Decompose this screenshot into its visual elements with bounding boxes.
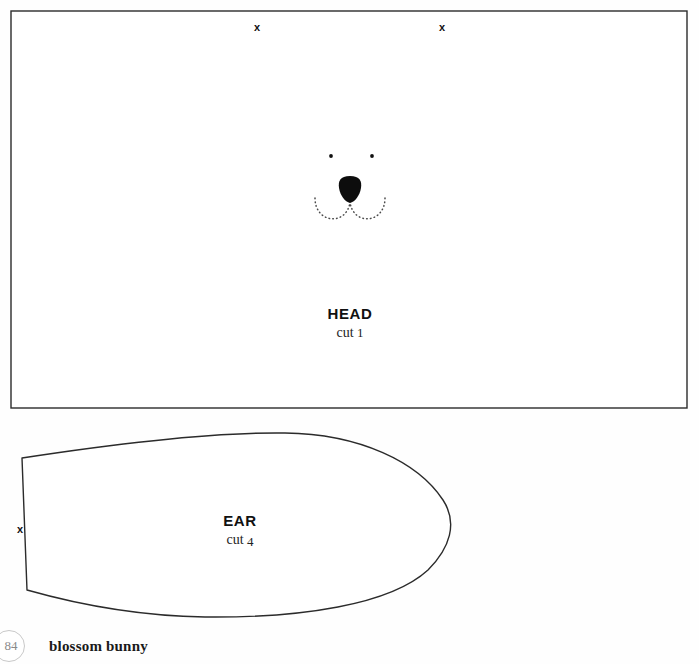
ear-piece-name: EAR bbox=[170, 513, 310, 528]
head-notch-left-mark: x bbox=[254, 22, 260, 33]
head-piece-outline bbox=[11, 11, 687, 408]
ear-notch-left-mark: x bbox=[17, 524, 23, 535]
ear-piece-cut-count: cut 4 bbox=[170, 533, 310, 547]
page-footer: 84 blossom bunny bbox=[0, 628, 699, 664]
head-cut-prefix: cut bbox=[336, 325, 353, 340]
page-number-badge: 84 bbox=[0, 630, 25, 662]
page-number-text: 84 bbox=[1, 638, 18, 654]
pattern-title: blossom bunny bbox=[49, 638, 148, 655]
head-piece-label: HEAD cut 1 bbox=[280, 306, 420, 340]
ear-piece-label: EAR cut 4 bbox=[170, 513, 310, 547]
head-cut-number: 1 bbox=[357, 325, 364, 340]
head-piece-name: HEAD bbox=[280, 306, 420, 321]
head-piece-cut-count: cut 1 bbox=[280, 326, 420, 340]
ear-cut-prefix: cut bbox=[226, 532, 243, 547]
eye-right-dot bbox=[370, 154, 374, 158]
eye-left-dot bbox=[329, 154, 333, 158]
pattern-page: x x x HEAD cut 1 EAR cut 4 84 blossom bu… bbox=[0, 0, 699, 664]
ear-cut-number: 4 bbox=[247, 534, 254, 549]
head-notch-right-mark: x bbox=[439, 22, 445, 33]
